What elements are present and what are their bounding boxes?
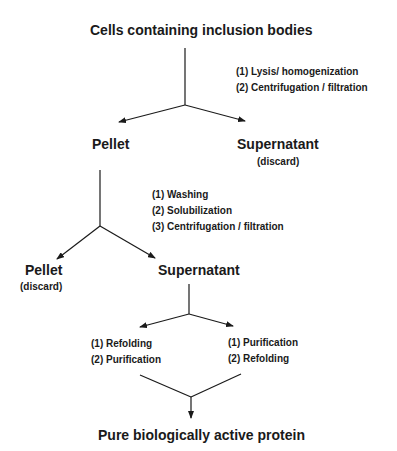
arrow-to-pellet1: [119, 105, 185, 122]
node-supernatant-1: Supernatant: [237, 137, 319, 151]
node-pure-active-protein: Pure biologically active protein: [98, 428, 305, 442]
step-refolding: (2) Refolding: [228, 351, 298, 367]
step-purification: (2) Purification: [91, 352, 161, 368]
step-centrifugation: (3) Centrifugation / filtration: [152, 219, 284, 235]
converge-line-right: [191, 374, 241, 397]
discard-note-pellet-2: (discard): [20, 282, 62, 292]
steps-branch-left: (1) Refolding (2) Purification: [91, 336, 161, 368]
node-cells-with-inclusion-bodies: Cells containing inclusion bodies: [90, 23, 312, 37]
node-supernatant-2: Supernatant: [158, 263, 240, 277]
steps-stage1: (1) Lysis/ homogenization (2) Centrifuga…: [236, 64, 368, 96]
step-purification: (1) Purification: [228, 335, 298, 351]
step-washing: (1) Washing: [152, 187, 284, 203]
workflow-diagram: Cells containing inclusion bodies (1) Ly…: [0, 0, 397, 451]
arrow-to-branch-left: [140, 314, 189, 327]
arrow-to-supernatant2: [100, 226, 155, 258]
converge-line-left: [140, 375, 191, 397]
arrow-to-supernatant1: [185, 105, 245, 121]
step-refolding: (1) Refolding: [91, 336, 161, 352]
steps-stage2: (1) Washing (2) Solubilization (3) Centr…: [152, 187, 284, 235]
steps-branch-right: (1) Purification (2) Refolding: [228, 335, 298, 367]
node-pellet-1: Pellet: [92, 137, 129, 151]
step-centrifugation: (2) Centrifugation / filtration: [236, 80, 368, 96]
step-lysis: (1) Lysis/ homogenization: [236, 64, 368, 80]
node-pellet-2: Pellet: [25, 263, 62, 277]
arrow-to-branch-right: [189, 314, 233, 326]
discard-note-supernatant-1: (discard): [257, 157, 299, 167]
arrow-to-pellet2: [57, 226, 100, 259]
step-solubilization: (2) Solubilization: [152, 203, 284, 219]
